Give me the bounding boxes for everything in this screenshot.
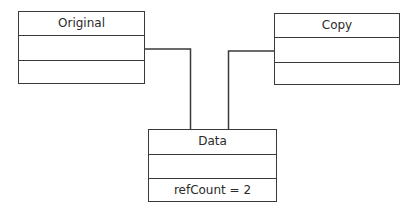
connector-copy-data [229,51,275,129]
class-box-copy[interactable]: Copy [274,13,400,85]
class-box-original[interactable]: Original [18,11,145,84]
data-attributes [149,154,276,178]
class-box-data[interactable]: Data refCount = 2 [148,129,277,202]
connector-original-data [144,49,191,129]
data-operations: refCount = 2 [149,178,276,202]
original-attributes [19,35,144,60]
original-operations [19,60,144,84]
copy-attributes [275,37,399,62]
copy-title: Copy [275,14,399,37]
data-title: Data [149,130,276,154]
copy-operations [275,62,399,85]
original-title: Original [19,12,144,35]
